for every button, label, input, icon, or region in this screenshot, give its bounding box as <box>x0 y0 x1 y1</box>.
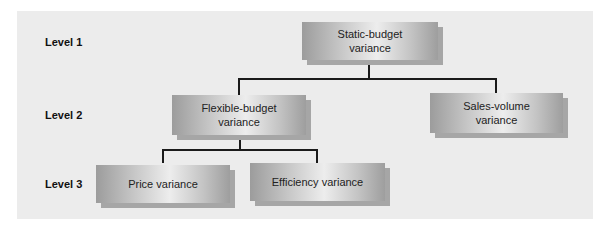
node-text: Static-budget <box>338 28 403 40</box>
node-efficiency-variance: Efficiency variance <box>250 163 385 201</box>
node-text: Sales-volume <box>463 100 530 112</box>
level-1-label: Level 1 <box>45 36 82 48</box>
node-flexible-budget-variance: Flexible-budgetvariance <box>172 95 306 135</box>
node-static-budget-variance: Static-budgetvariance <box>302 22 438 60</box>
connector-line <box>238 78 240 95</box>
node-text: variance <box>349 42 391 54</box>
node-text: Price variance <box>128 177 198 191</box>
node-text: Flexible-budget <box>201 102 276 114</box>
connector-line <box>238 78 496 80</box>
level-2-label: Level 2 <box>45 109 82 121</box>
node-sales-volume-variance: Sales-volumevariance <box>430 93 563 133</box>
node-text: Efficiency variance <box>272 175 364 189</box>
node-text: variance <box>218 116 260 128</box>
connector-line <box>495 78 497 94</box>
connector-line <box>162 149 164 163</box>
node-price-variance: Price variance <box>96 165 230 203</box>
level-3-label: Level 3 <box>45 178 82 190</box>
node-text: variance <box>476 114 518 126</box>
connector-line <box>316 149 318 163</box>
connector-line <box>162 149 318 151</box>
